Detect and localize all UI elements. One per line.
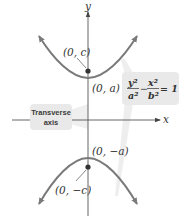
eq-term2-denominator: b² (148, 90, 159, 101)
eq-term1-numerator: y² (127, 77, 138, 88)
hyperbola-diagram: (0, c) (0, a) (0, −a) (0, −c) y x y² a² … (0, 0, 184, 218)
x-axis-label: x (163, 113, 169, 125)
lower-branch (88, 158, 137, 204)
upper-vertex-label: (0, a) (92, 82, 120, 94)
eq-rhs: = 1 (160, 83, 178, 94)
upper-focus-point (85, 68, 90, 73)
lower-vertex-label: (0, −a) (92, 145, 129, 157)
transverse-axis-label-line1: Transverse (31, 108, 71, 117)
lower-focus-point (85, 164, 90, 169)
lower-focus-leader (76, 170, 86, 181)
upper-focus-leader (77, 58, 86, 68)
eq-term2-numerator: x² (147, 77, 158, 88)
transverse-axis-label-line2: axis (44, 118, 59, 127)
upper-focus-label: (0, c) (63, 46, 90, 58)
lower-branch-left (39, 158, 88, 204)
eq-operator: − (140, 83, 148, 94)
lower-focus-label: (0, −c) (55, 184, 91, 196)
callout-leader (70, 104, 88, 129)
y-axis-label: y (84, 0, 92, 12)
eq-term1-denominator: a² (128, 90, 138, 101)
